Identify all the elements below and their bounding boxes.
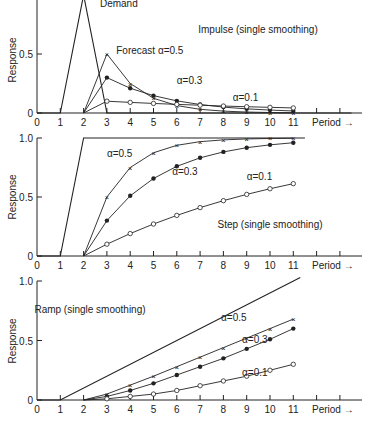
x-tick-label: 3 bbox=[104, 260, 110, 271]
annotation-label: α=0.5 bbox=[107, 148, 133, 159]
open-circle-marker-icon bbox=[175, 213, 179, 217]
open-circle-marker-icon bbox=[128, 394, 132, 398]
y-tick-label: 1.0 bbox=[19, 276, 33, 287]
x-marker-icon: × bbox=[198, 138, 203, 147]
x-axis-label: Period → bbox=[312, 117, 354, 128]
filled-circle-marker-icon bbox=[175, 373, 179, 377]
x-tick-label: 6 bbox=[174, 404, 180, 415]
x-tick-label: 8 bbox=[221, 260, 227, 271]
open-circle-marker-icon bbox=[268, 368, 272, 372]
x-axis-label: Period → bbox=[312, 260, 354, 271]
open-circle-marker-icon bbox=[291, 362, 295, 366]
open-circle-marker-icon bbox=[151, 392, 155, 396]
demand-line bbox=[37, 0, 352, 113]
y-tick-label: 0 bbox=[27, 251, 33, 262]
x-marker-icon: × bbox=[268, 325, 273, 334]
x-tick-label: 3 bbox=[104, 117, 110, 128]
x-tick-label: 5 bbox=[151, 404, 157, 415]
filled-circle-marker-icon bbox=[198, 156, 202, 160]
x-tick-label: 0 bbox=[34, 117, 40, 128]
x-tick-label: 4 bbox=[127, 404, 133, 415]
step-chart: 00.51.001234567891011Period →ResponseSte… bbox=[7, 133, 362, 271]
x-tick-label: 5 bbox=[151, 117, 157, 128]
x-marker-icon: × bbox=[174, 141, 179, 150]
annotation-label: α=0.1 bbox=[242, 367, 268, 378]
open-circle-marker-icon bbox=[245, 192, 249, 196]
demand-line bbox=[37, 138, 305, 256]
filled-circle-marker-icon bbox=[105, 218, 109, 222]
filled-circle-marker-icon bbox=[105, 75, 109, 79]
filled-circle-marker-icon bbox=[128, 86, 132, 90]
open-circle-marker-icon bbox=[198, 205, 202, 209]
x-marker-icon: × bbox=[291, 315, 296, 324]
filled-circle-marker-icon bbox=[128, 194, 132, 198]
filled-circle-marker-icon bbox=[151, 93, 155, 97]
annotation-label: α=0.1 bbox=[233, 92, 259, 103]
open-circle-marker-icon bbox=[221, 379, 225, 383]
x-tick-label: 4 bbox=[127, 260, 133, 271]
x-tick-label: 9 bbox=[244, 404, 250, 415]
x-marker-icon: × bbox=[105, 193, 110, 202]
x-tick-label: 10 bbox=[264, 117, 276, 128]
open-circle-marker-icon bbox=[151, 222, 155, 226]
annotation-label: α=0.5 bbox=[221, 312, 247, 323]
open-circle-marker-icon bbox=[198, 103, 202, 107]
open-circle-marker-icon bbox=[128, 231, 132, 235]
x-marker-icon: × bbox=[174, 363, 179, 372]
open-circle-marker-icon bbox=[221, 198, 225, 202]
filled-circle-marker-icon bbox=[151, 381, 155, 385]
x-tick-label: 9 bbox=[244, 117, 250, 128]
x-marker-icon: × bbox=[198, 353, 203, 362]
y-tick-label: 0.5 bbox=[19, 192, 33, 203]
open-circle-marker-icon bbox=[268, 187, 272, 191]
x-tick-label: 7 bbox=[197, 117, 203, 128]
ramp-chart: 00.51.001234567891011Period →ResponseRam… bbox=[7, 276, 362, 415]
chart-title: Impulse (single smoothing) bbox=[198, 24, 318, 35]
x-tick-label: 6 bbox=[174, 260, 180, 271]
annotation-label: α=0.1 bbox=[247, 171, 273, 182]
filled-circle-marker-icon bbox=[198, 364, 202, 368]
filled-circle-marker-icon bbox=[245, 145, 249, 149]
x-tick-label: 2 bbox=[81, 117, 87, 128]
x-tick-label: 9 bbox=[244, 260, 250, 271]
x-tick-label: 2 bbox=[81, 260, 87, 271]
annotation-label: α=0.3 bbox=[242, 334, 268, 345]
x-marker-icon: × bbox=[128, 164, 133, 173]
x-tick-label: 1 bbox=[58, 260, 64, 271]
x-tick-label: 1 bbox=[58, 117, 64, 128]
x-axis-label: Period → bbox=[312, 404, 354, 415]
x-tick-label: 1 bbox=[58, 404, 64, 415]
y-tick-label: 1.0 bbox=[19, 133, 33, 144]
x-tick-label: 10 bbox=[264, 260, 276, 271]
x-tick-label: 11 bbox=[288, 260, 299, 271]
forecast-response-figure: 00.501234567891011Period →ResponseImpuls… bbox=[0, 0, 368, 424]
y-tick-label: 0 bbox=[27, 395, 33, 406]
open-circle-marker-icon bbox=[175, 388, 179, 392]
open-circle-marker-icon bbox=[221, 104, 225, 108]
x-marker-icon: × bbox=[105, 50, 110, 59]
y-axis-label: Response bbox=[7, 318, 18, 363]
x-tick-label: 6 bbox=[174, 117, 180, 128]
x-marker-icon: × bbox=[151, 372, 156, 381]
x-tick-label: 8 bbox=[221, 117, 227, 128]
x-tick-label: 11 bbox=[288, 117, 299, 128]
y-tick-label: 0.5 bbox=[19, 49, 33, 60]
x-marker-icon: × bbox=[221, 344, 226, 353]
annotation-label: Forecast α=0.5 bbox=[116, 45, 184, 56]
open-circle-marker-icon bbox=[105, 397, 109, 401]
open-circle-marker-icon bbox=[268, 105, 272, 109]
x-tick-label: 5 bbox=[151, 260, 157, 271]
x-tick-label: 4 bbox=[127, 117, 133, 128]
filled-circle-marker-icon bbox=[151, 176, 155, 180]
y-axis-label: Response bbox=[7, 174, 18, 219]
open-circle-marker-icon bbox=[105, 99, 109, 103]
open-circle-marker-icon bbox=[291, 181, 295, 185]
open-circle-marker-icon bbox=[128, 100, 132, 104]
x-marker-icon: × bbox=[151, 149, 156, 158]
x-marker-icon: × bbox=[244, 135, 249, 144]
x-tick-label: 2 bbox=[81, 404, 87, 415]
annotation-label: α=0.3 bbox=[177, 75, 203, 86]
filled-circle-marker-icon bbox=[245, 347, 249, 351]
open-circle-marker-icon bbox=[151, 101, 155, 105]
filled-circle-marker-icon bbox=[221, 150, 225, 154]
